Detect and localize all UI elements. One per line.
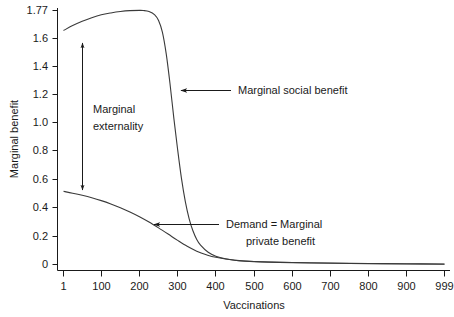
x-tick-label: 999 (435, 280, 453, 292)
x-tick-label: 200 (130, 280, 148, 292)
x-tick-label: 900 (397, 280, 415, 292)
y-tick-label: 1.6 (33, 32, 48, 44)
y-axis-ticks (53, 11, 58, 265)
x-tick-label: 700 (321, 280, 339, 292)
y-axis-tick-labels: 1.77 1.6 1.4 1.2 1.0 0.8 0.6 0.4 0.2 0 (27, 4, 48, 270)
annotation-label-marginal-social-benefit: Marginal social benefit (238, 84, 347, 96)
x-axis-title: Vaccinations (223, 299, 285, 311)
x-tick-label: 600 (283, 280, 301, 292)
y-tick-label: 1.2 (33, 88, 48, 100)
y-tick-label: 0.4 (33, 201, 48, 213)
y-tick-label: 0 (42, 258, 48, 270)
y-tick-label: 0.2 (33, 230, 48, 242)
annotation-demand-marginal-private-benefit: Demand = Marginal private benefit (154, 218, 322, 247)
annotation-label-demand-line1: Demand = Marginal (226, 218, 322, 230)
annotation-label-demand-line2: private benefit (246, 235, 315, 247)
y-tick-label: 0.8 (33, 144, 48, 156)
x-axis-ticks (64, 271, 445, 277)
x-tick-label: 400 (206, 280, 224, 292)
x-tick-label: 500 (245, 280, 263, 292)
annotation-marginal-externality: Marginal externality (83, 43, 144, 190)
y-tick-label: 1.4 (33, 60, 48, 72)
y-tick-label: 1.0 (33, 116, 48, 128)
x-tick-label: 1 (60, 280, 66, 292)
x-tick-label: 800 (359, 280, 377, 292)
y-tick-label: 1.77 (27, 4, 48, 16)
y-tick-label: 0.6 (33, 173, 48, 185)
x-tick-label: 300 (168, 280, 186, 292)
y-axis-title: Marginal benefit (8, 100, 20, 178)
x-axis-tick-labels: 1 100 200 300 400 500 600 700 800 900 99… (60, 280, 453, 292)
annotation-label-externality-line1: Marginal (93, 103, 135, 115)
annotation-marginal-social-benefit: Marginal social benefit (181, 84, 347, 96)
annotation-label-externality-line2: externality (93, 120, 144, 132)
x-tick-label: 100 (92, 280, 110, 292)
chart-canvas: 1.77 1.6 1.4 1.2 1.0 0.8 0.6 0.4 0.2 0 (0, 0, 454, 317)
chart-figure: 1.77 1.6 1.4 1.2 1.0 0.8 0.6 0.4 0.2 0 (0, 0, 454, 317)
